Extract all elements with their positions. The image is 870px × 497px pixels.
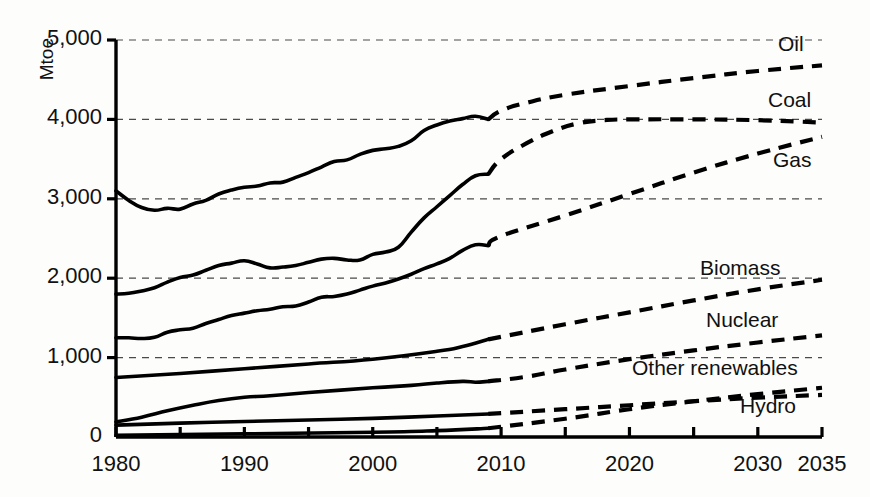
history-line — [116, 116, 488, 210]
history-line — [116, 339, 488, 377]
history-line — [116, 245, 488, 339]
projection-line — [488, 119, 822, 174]
series-oil — [116, 65, 822, 210]
series-other-renewables — [116, 388, 822, 436]
x-tick-label-2010: 2010 — [477, 451, 526, 477]
x-tick-label-1990: 1990 — [220, 451, 269, 477]
history-line — [116, 428, 488, 435]
history-line — [116, 414, 488, 425]
y-tick-label-3000: 3,000 — [6, 184, 102, 210]
x-tick-label-2020: 2020 — [605, 451, 654, 477]
projection-line — [488, 137, 822, 246]
history-line — [116, 174, 488, 294]
series-label-coal: Coal — [768, 88, 811, 112]
series-label-nuclear: Nuclear — [706, 308, 778, 332]
chart-canvas — [0, 0, 870, 497]
y-tick-label-1000: 1,000 — [6, 343, 102, 369]
y-tick-label-4000: 4,000 — [6, 104, 102, 130]
x-tick-label-2000: 2000 — [348, 451, 397, 477]
series-label-biomass: Biomass — [700, 256, 781, 280]
x-tick-label-2035: 2035 — [798, 451, 847, 477]
series-label-gas: Gas — [773, 148, 812, 172]
series-label-oil: Oil — [778, 32, 804, 56]
energy-demand-chart: Mtoe 5,000 4,000 3,000 2,000 1,000 0 198… — [0, 0, 870, 497]
series-label-hydro: Hydro — [740, 394, 796, 418]
y-tick-label-5000: 5,000 — [6, 25, 102, 51]
series-label-other-renewables: Other renewables — [632, 356, 798, 380]
y-tick-label-0: 0 — [6, 422, 102, 448]
y-tick-label-2000: 2,000 — [6, 263, 102, 289]
x-tick-label-1980: 1980 — [92, 451, 141, 477]
x-tick-label-2030: 2030 — [733, 451, 782, 477]
